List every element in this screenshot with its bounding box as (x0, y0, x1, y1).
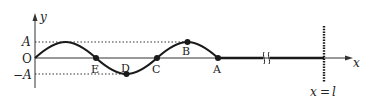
point-B-label: B (182, 45, 190, 58)
x-axis-label: x (353, 56, 360, 70)
y-axis-arrow-icon (33, 13, 38, 21)
point-C (154, 55, 160, 61)
boundary-label-x: x (310, 85, 317, 99)
point-E (93, 55, 99, 61)
boundary-label-l: l (332, 85, 336, 99)
wave-diagram: y x A O −A E D C B A x = l (0, 0, 369, 112)
point-A-label: A (212, 63, 222, 76)
boundary-label-eq: = (320, 85, 330, 99)
y-axis-label: y (39, 10, 47, 24)
point-E-label: E (91, 63, 99, 76)
amplitude-label: A (21, 35, 31, 49)
neg-amplitude-label: −A (13, 68, 32, 82)
point-D-label: D (121, 62, 130, 75)
origin-label: O (22, 52, 32, 66)
point-A (215, 55, 221, 61)
point-C-label: C (152, 63, 160, 76)
x-axis-arrow-icon (345, 56, 353, 61)
